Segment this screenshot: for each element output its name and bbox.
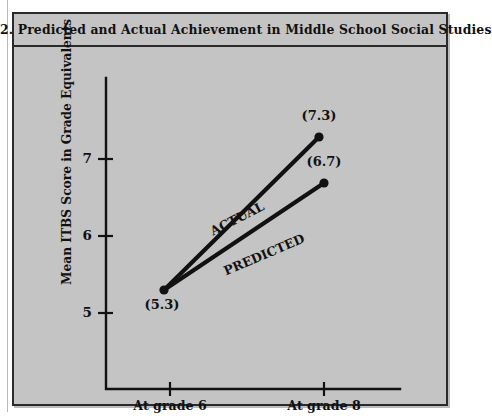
data-label-actual-grade8: (7.3) (284, 108, 354, 123)
data-label-start: (5.3) (127, 297, 197, 312)
page-margin-rule (7, 0, 8, 412)
y-tick-label-5: 5 (66, 304, 92, 320)
data-point-actual-grade8 (314, 132, 323, 141)
figure-caption-band: Fig. 2. Predicted and Actual Achievement… (14, 14, 446, 47)
y-tick-label-6: 6 (66, 227, 92, 243)
chart-plot-area: Mean ITBS Score in Grade Equivalents 7 6… (14, 45, 446, 404)
y-tick-label-7: 7 (66, 150, 92, 166)
data-label-predicted-grade8: (6.7) (289, 154, 359, 169)
axis-frame (106, 78, 400, 389)
data-point-start (159, 285, 168, 294)
x-tick-label-grade-8: At grade 8 (254, 398, 394, 413)
data-point-predicted-grade8 (319, 178, 328, 187)
figure-container: Fig. 2. Predicted and Actual Achievement… (12, 12, 448, 406)
x-tick-label-grade-6: At grade 6 (100, 398, 240, 413)
y-axis-title: Mean ITBS Score in Grade Equivalents (60, 55, 74, 285)
